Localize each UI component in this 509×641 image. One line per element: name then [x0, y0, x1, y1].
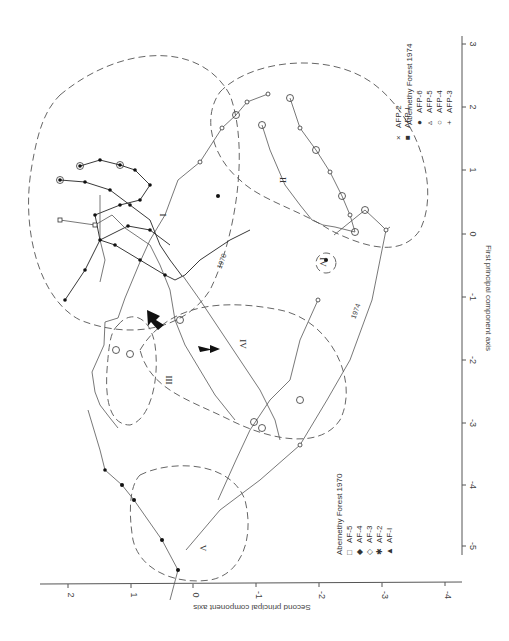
cluster-III-boundary	[107, 317, 157, 425]
second-pc-axis-title: Second principal component axis	[193, 603, 310, 612]
legend-1974: Abernethy Forest 1974 ● AFP-6 ▵ AFP-5 ○ …	[394, 43, 454, 140]
pca-chart: 3 2 1 0 -1 -2 -3 -4 -5 First principal c…	[0, 0, 509, 641]
svg-text:1: 1	[468, 167, 478, 172]
svg-text:◇: ◇	[365, 548, 374, 555]
svg-text:I: I	[158, 214, 168, 217]
first-pc-axis-title: First principal component axis	[484, 245, 493, 351]
svg-text:AF-3: AF-3	[365, 525, 374, 543]
svg-text:2: 2	[468, 104, 478, 109]
svg-text:-2: -2	[317, 591, 327, 599]
svg-text:0: 0	[468, 231, 478, 236]
second-pc-axis: 2 1 0 -1 -2 -3 -4 Second principal compo…	[40, 582, 462, 612]
svg-text:-1: -1	[468, 293, 478, 301]
svg-text:II: II	[278, 177, 288, 183]
svg-text:▵: ▵	[425, 121, 434, 125]
svg-text:■: ■	[403, 135, 412, 140]
svg-text:AFP-4: AFP-4	[435, 90, 444, 113]
svg-text:2: 2	[66, 592, 76, 597]
svg-text:□: □	[345, 550, 354, 555]
svg-text:-4: -4	[443, 591, 453, 599]
svg-text:×: ×	[394, 135, 403, 140]
svg-text:-5: -5	[468, 542, 478, 550]
cluster-V-boundary	[130, 466, 248, 581]
svg-text:AFP-3: AFP-3	[445, 90, 454, 113]
year-1970-label: 1970	[216, 253, 228, 270]
svg-text:AFP-I: AFP-I	[403, 108, 412, 128]
svg-text:◆: ◆	[355, 548, 364, 555]
svg-text:AFP-6: AFP-6	[415, 90, 424, 113]
cluster-boundaries	[29, 56, 428, 581]
legend-1970: Abernethy Forest 1970 □ AF-5 ◆ AF-4 ◇ AF…	[335, 473, 394, 555]
svg-text:AFP-5: AFP-5	[425, 90, 434, 113]
arrow-marker-1	[147, 310, 164, 330]
first-pc-axis: 3 2 1 0 -1 -2 -3 -4 -5 First principal c…	[462, 36, 493, 555]
svg-text:AF-4: AF-4	[355, 525, 364, 543]
svg-text:3: 3	[468, 41, 478, 46]
second-pc-tick-labels: 2 1 0 -1 -2 -3 -4	[66, 591, 453, 599]
svg-text:+: +	[445, 120, 454, 125]
svg-text:IV: IV	[318, 257, 328, 267]
svg-text:-3: -3	[380, 591, 390, 599]
svg-text:AF-5: AF-5	[345, 525, 354, 543]
svg-text:●: ●	[415, 120, 424, 125]
svg-text:AF-I: AF-I	[385, 528, 394, 543]
trajectory-1974	[92, 94, 390, 550]
svg-text:1: 1	[129, 592, 139, 597]
svg-text:AF-2: AF-2	[375, 525, 384, 543]
svg-text:-3: -3	[468, 419, 478, 427]
svg-text:-2: -2	[468, 356, 478, 364]
svg-text:AFP-2: AFP-2	[394, 105, 403, 128]
svg-text:-4: -4	[468, 481, 478, 489]
first-pc-tick-labels: 3 2 1 0 -1 -2 -3 -4 -5	[468, 41, 478, 550]
arrow-marker-2	[198, 345, 220, 353]
svg-text:V: V	[198, 545, 208, 552]
svg-text:0: 0	[191, 592, 201, 597]
svg-text:✱: ✱	[375, 548, 384, 555]
svg-text:III: III	[164, 376, 174, 385]
svg-text:IV: IV	[238, 339, 248, 349]
first-pc-ticks	[462, 44, 466, 546]
svg-text:○: ○	[435, 120, 444, 125]
legend-1970-title: Abernethy Forest 1970	[335, 473, 344, 555]
cluster-I-boundary	[29, 56, 240, 330]
svg-text:-1: -1	[254, 591, 264, 599]
svg-text:▲: ▲	[385, 547, 394, 555]
year-1974-label: 1974	[350, 303, 362, 320]
